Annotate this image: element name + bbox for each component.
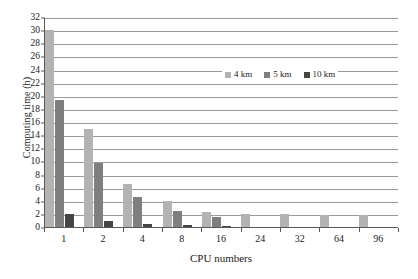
y-axis-tick-mark — [41, 201, 45, 202]
y-axis-tick-mark — [41, 44, 45, 45]
bar-4-km-4[interactable] — [123, 184, 132, 227]
x-axis-ticks: 12481624326496 — [44, 228, 398, 250]
y-axis-tick-mark — [41, 70, 45, 71]
legend-swatch-icon — [264, 72, 270, 78]
bar-4-km-24[interactable] — [241, 214, 250, 227]
x-axis-tick-label: 16 — [201, 234, 240, 244]
x-axis-tick-mark — [44, 228, 45, 232]
x-axis-tick: 64 — [319, 228, 358, 250]
x-axis-tick-mark — [359, 228, 360, 232]
bar-group — [320, 18, 359, 227]
bar-group — [280, 18, 319, 227]
bar-5-km-2[interactable] — [94, 163, 103, 227]
x-axis-title: CPU numbers — [44, 252, 398, 264]
x-axis-tick-label: 2 — [83, 234, 122, 244]
bar-group — [241, 18, 280, 227]
y-axis-tick-mark — [41, 149, 45, 150]
x-axis-tick-label: 1 — [44, 234, 83, 244]
x-axis-tick-label: 64 — [319, 234, 358, 244]
legend-swatch-icon — [304, 72, 310, 78]
y-axis-tick-mark — [41, 18, 45, 19]
x-axis-tick-mark — [123, 228, 124, 232]
bar-group — [163, 18, 202, 227]
bar-5-km-8[interactable] — [173, 211, 182, 227]
bar-5-km-16[interactable] — [212, 217, 221, 227]
legend-item-5-km[interactable]: 5 km — [264, 70, 291, 79]
x-axis-tick-label: 32 — [280, 234, 319, 244]
x-axis-tick-mark — [319, 228, 320, 232]
x-axis-tick-label: 96 — [359, 234, 398, 244]
bar-series-container — [45, 18, 398, 227]
x-axis-tick: 96 — [359, 228, 398, 250]
bar-10-km-2[interactable] — [104, 221, 113, 227]
y-axis-tick-mark — [41, 123, 45, 124]
y-axis-tick-mark — [41, 175, 45, 176]
legend-item-4-km[interactable]: 4 km — [225, 70, 252, 79]
legend-label: 10 km — [313, 70, 336, 79]
x-axis-tick-label: 8 — [162, 234, 201, 244]
x-axis-tick: 1 — [44, 228, 83, 250]
legend-item-10-km[interactable]: 10 km — [304, 70, 336, 79]
y-axis-tick-mark — [41, 162, 45, 163]
bar-10-km-1[interactable] — [65, 214, 74, 227]
x-axis-end-tick — [398, 228, 399, 232]
bar-4-km-2[interactable] — [84, 129, 93, 227]
chart-legend: 4 km5 km10 km — [222, 69, 338, 80]
x-axis-tick: 8 — [162, 228, 201, 250]
y-axis-tick-mark — [41, 188, 45, 189]
legend-label: 4 km — [234, 70, 252, 79]
bar-4-km-32[interactable] — [280, 214, 289, 227]
x-axis-tick: 32 — [280, 228, 319, 250]
x-axis-tick: 2 — [83, 228, 122, 250]
bar-10-km-4[interactable] — [143, 224, 152, 227]
x-axis-tick-mark — [83, 228, 84, 232]
y-axis-tick-mark — [41, 109, 45, 110]
x-axis-tick-mark — [280, 228, 281, 232]
y-axis-tick-mark — [41, 31, 45, 32]
bar-group — [123, 18, 162, 227]
x-axis-tick-mark — [162, 228, 163, 232]
y-axis-tick-mark — [41, 96, 45, 97]
y-axis-tick-mark — [41, 136, 45, 137]
y-axis-tick-mark — [41, 83, 45, 84]
y-axis-tick-mark — [41, 57, 45, 58]
bar-group — [202, 18, 241, 227]
bar-4-km-1[interactable] — [45, 30, 54, 227]
bar-4-km-64[interactable] — [320, 215, 329, 227]
chart-figure: Computing time (h) 024681012141618202224… — [0, 0, 418, 279]
bar-group — [45, 18, 84, 227]
x-axis-tick-mark — [201, 228, 202, 232]
bar-4-km-8[interactable] — [163, 201, 172, 227]
bar-10-km-8[interactable] — [183, 225, 192, 227]
bar-5-km-1[interactable] — [55, 100, 64, 227]
y-axis-tick-mark — [41, 214, 45, 215]
bar-4-km-96[interactable] — [359, 215, 368, 227]
bar-group — [359, 18, 398, 227]
x-axis-tick-label: 24 — [241, 234, 280, 244]
x-axis-tick: 16 — [201, 228, 240, 250]
bar-4-km-16[interactable] — [202, 212, 211, 227]
bar-10-km-16[interactable] — [222, 226, 231, 227]
x-axis-tick: 24 — [241, 228, 280, 250]
bar-group — [84, 18, 123, 227]
legend-label: 5 km — [273, 70, 291, 79]
bar-5-km-4[interactable] — [133, 197, 142, 227]
legend-swatch-icon — [225, 72, 231, 78]
plot-area: 02468101214161820222426283032 — [44, 18, 398, 228]
x-axis-tick: 4 — [123, 228, 162, 250]
x-axis-tick-label: 4 — [123, 234, 162, 244]
x-axis-tick-mark — [241, 228, 242, 232]
